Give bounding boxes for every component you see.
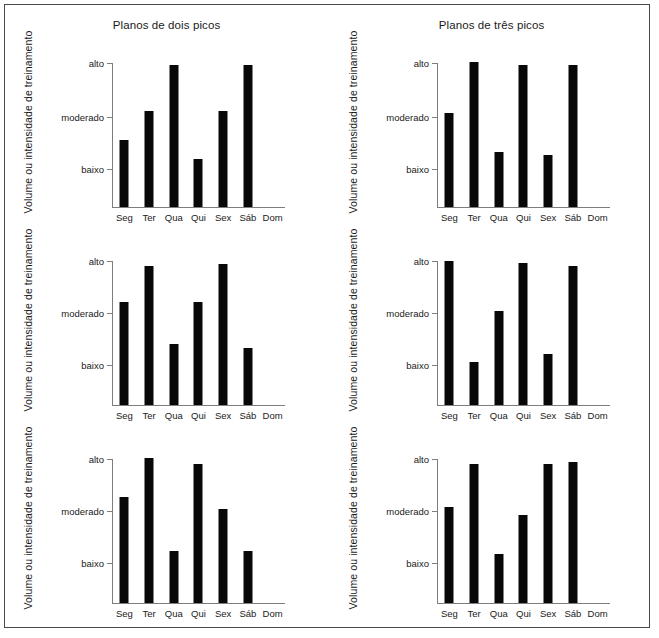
x-tick-label-Sex: Sex xyxy=(540,608,556,619)
y-axis-title-text: Volume ou intensidade de treinamento xyxy=(22,426,34,609)
bar-Qui[interactable] xyxy=(194,302,203,405)
bar-slot-Sex: Sex xyxy=(536,63,561,207)
bar-Sex[interactable] xyxy=(219,264,228,405)
bar-Ter[interactable] xyxy=(145,111,154,207)
y-tick-label-alto: alto xyxy=(89,454,104,465)
bar-Seg[interactable] xyxy=(445,507,454,603)
bar-Ter[interactable] xyxy=(145,458,154,603)
bar-Seg[interactable] xyxy=(120,140,129,207)
chart-cell-2: Planos de três picosVolume ou intensidad… xyxy=(330,5,653,217)
bar-Ter[interactable] xyxy=(145,266,154,405)
bar-series: SegTerQuaQuiSexSábDom xyxy=(112,63,285,207)
bar-Sex[interactable] xyxy=(544,354,553,405)
bar-slot-Sex: Sex xyxy=(211,459,236,603)
bar-Sáb[interactable] xyxy=(243,551,252,603)
y-tick-label-moderado: moderado xyxy=(61,111,104,122)
bar-Seg[interactable] xyxy=(445,113,454,207)
bar-slot-Qua: Qua xyxy=(161,459,186,603)
bar-slot-Dom: Dom xyxy=(585,63,610,207)
bar-slot-Qua: Qua xyxy=(486,459,511,603)
x-tick-label-Dom: Dom xyxy=(588,608,608,619)
bar-Qui[interactable] xyxy=(519,263,528,405)
y-tick-label-moderado: moderado xyxy=(386,308,429,319)
bar-Sáb[interactable] xyxy=(243,65,252,207)
y-tick-label-baixo: baixo xyxy=(406,360,429,371)
y-axis-title: Volume ou intensidade de treinamento xyxy=(344,21,362,222)
plot-area: altomoderadobaixoSegTerQuaQuiSexSábDom xyxy=(112,261,285,406)
bar-slot-Seg: Seg xyxy=(437,459,462,603)
bar-slot-Sáb: Sáb xyxy=(561,261,586,405)
figure-page: Planos de dois picosVolume ou intensidad… xyxy=(0,0,659,638)
bar-Qua[interactable] xyxy=(169,344,178,405)
plot-area: altomoderadobaixoSegTerQuaQuiSexSábDom xyxy=(112,63,285,208)
y-axis-title: Volume ou intensidade de treinamento xyxy=(344,417,362,618)
bar-slot-Qui: Qui xyxy=(186,261,211,405)
y-tick-label-baixo: baixo xyxy=(406,163,429,174)
bar-slot-Qui: Qui xyxy=(186,63,211,207)
bar-Qua[interactable] xyxy=(169,65,178,207)
bar-slot-Ter: Ter xyxy=(137,459,162,603)
bar-Qui[interactable] xyxy=(519,65,528,207)
chart-cell-3: Volume ou intensidade de treinamentoalto… xyxy=(5,203,328,415)
chart-grid: Planos de dois picosVolume ou intensidad… xyxy=(5,5,651,629)
bar-Qui[interactable] xyxy=(519,515,528,603)
bar-Qua[interactable] xyxy=(494,554,503,603)
y-axis-title-text: Volume ou intensidade de treinamento xyxy=(347,228,359,411)
bar-slot-Seg: Seg xyxy=(437,63,462,207)
x-tick-label-Ter: Ter xyxy=(142,608,155,619)
y-tick-label-moderado: moderado xyxy=(61,506,104,517)
y-axis-title-text: Volume ou intensidade de treinamento xyxy=(347,426,359,609)
bar-slot-Qua: Qua xyxy=(486,261,511,405)
bar-slot-Dom: Dom xyxy=(260,261,285,405)
bar-Sáb[interactable] xyxy=(568,266,577,405)
y-tick-label-alto: alto xyxy=(89,58,104,69)
y-tick-label-baixo: baixo xyxy=(81,558,104,569)
chart-cell-5: Volume ou intensidade de treinamentoalto… xyxy=(5,401,328,613)
bar-Seg[interactable] xyxy=(120,302,129,405)
x-tick-label-Ter: Ter xyxy=(467,608,480,619)
y-tick-label-baixo: baixo xyxy=(81,163,104,174)
bar-Sex[interactable] xyxy=(219,509,228,603)
y-tick-label-alto: alto xyxy=(414,454,429,465)
x-tick-label-Qui: Qui xyxy=(191,608,206,619)
bar-slot-Seg: Seg xyxy=(112,459,137,603)
bar-Qui[interactable] xyxy=(194,159,203,207)
x-axis-line xyxy=(437,603,610,604)
bar-Ter[interactable] xyxy=(470,62,479,207)
bar-series: SegTerQuaQuiSexSábDom xyxy=(112,459,285,603)
bar-Seg[interactable] xyxy=(445,261,454,405)
bar-slot-Qua: Qua xyxy=(486,63,511,207)
y-tick-label-moderado: moderado xyxy=(61,308,104,319)
bar-Qua[interactable] xyxy=(494,311,503,405)
chart-cell-1: Planos de dois picosVolume ou intensidad… xyxy=(5,5,328,217)
bar-slot-Seg: Seg xyxy=(437,261,462,405)
y-axis-title-text: Volume ou intensidade de treinamento xyxy=(347,30,359,213)
x-tick-label-Seg: Seg xyxy=(116,608,133,619)
bar-Qua[interactable] xyxy=(169,551,178,603)
y-tick-label-baixo: baixo xyxy=(81,360,104,371)
bar-Qui[interactable] xyxy=(194,464,203,603)
bar-Sex[interactable] xyxy=(544,155,553,207)
x-tick-label-Sex: Sex xyxy=(215,608,231,619)
bar-slot-Ter: Ter xyxy=(462,459,487,603)
bar-Sáb[interactable] xyxy=(568,65,577,207)
bar-slot-Ter: Ter xyxy=(462,63,487,207)
bar-slot-Qui: Qui xyxy=(511,459,536,603)
bar-Sex[interactable] xyxy=(544,464,553,603)
y-axis-title-text: Volume ou intensidade de treinamento xyxy=(22,30,34,213)
y-tick-label-alto: alto xyxy=(89,256,104,267)
bar-Sex[interactable] xyxy=(219,111,228,207)
bar-slot-Dom: Dom xyxy=(585,459,610,603)
bar-Ter[interactable] xyxy=(470,464,479,603)
bar-Ter[interactable] xyxy=(470,362,479,406)
y-tick-label-moderado: moderado xyxy=(386,111,429,122)
x-axis-line xyxy=(112,603,285,604)
y-tick-label-baixo: baixo xyxy=(406,558,429,569)
bar-Sáb[interactable] xyxy=(243,348,252,405)
bar-Qua[interactable] xyxy=(494,152,503,207)
bar-Sáb[interactable] xyxy=(568,462,577,603)
bar-slot-Qua: Qua xyxy=(161,63,186,207)
bar-Seg[interactable] xyxy=(120,497,129,603)
bar-series: SegTerQuaQuiSexSábDom xyxy=(437,63,610,207)
bar-slot-Ter: Ter xyxy=(462,261,487,405)
